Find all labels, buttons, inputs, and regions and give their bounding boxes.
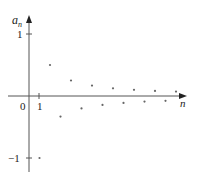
data-point [154,90,156,92]
y-tick-one-label: 1 [17,28,23,40]
data-point [101,104,103,106]
y-tick-minus-one-label: −1 [8,152,20,164]
origin-label: 0 [20,100,26,112]
data-point [80,107,82,109]
data-point [143,101,145,103]
data-point [164,100,166,102]
data-point [38,157,40,159]
x-axis-label: n [180,97,186,109]
data-point [91,85,93,87]
data-point [49,64,51,66]
y-axis-arrow-icon [26,15,32,23]
data-point [112,87,114,89]
data-point [122,102,124,104]
data-point [59,116,61,118]
sequence-plot: an 1 −1 0 1 n [0,0,198,179]
y-axis-label: an [12,13,22,29]
data-point [133,89,135,91]
data-point [175,91,177,93]
x-tick-one-label: 1 [37,100,43,112]
data-points [38,64,177,159]
data-point [70,79,72,81]
